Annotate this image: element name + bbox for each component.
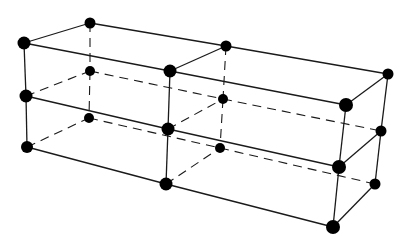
visible-edge-FL0-FL1 — [24, 43, 26, 96]
visible-edge-FR0-FR1 — [339, 105, 346, 167]
visible-edge-FR0-BR0 — [346, 74, 388, 105]
visible-edge-FR2-BR2 — [333, 184, 375, 227]
hidden-edge-FM2-BM2 — [166, 148, 220, 184]
visible-edge-FM0-BM0 — [170, 46, 226, 71]
node-BL2 — [84, 113, 94, 123]
visible-edge-BR1-BR2 — [375, 131, 381, 184]
hidden-edge-BM2-BR2 — [220, 148, 375, 184]
node-FR2 — [326, 220, 340, 234]
hidden-edge-FM1-BM1 — [168, 99, 223, 129]
visible-edge-FL1-FL2 — [26, 96, 27, 147]
node-BR0 — [383, 69, 394, 80]
node-FR1 — [332, 160, 346, 174]
visible-edge-FM1-FR1 — [168, 129, 339, 167]
lattice-diagram — [0, 0, 412, 244]
node-BR2 — [370, 179, 381, 190]
edge-layer — [24, 23, 388, 227]
node-BM0 — [221, 41, 232, 52]
hidden-edge-BM1-BR1 — [223, 99, 381, 131]
visible-edge-FM0-FM1 — [168, 71, 170, 129]
visible-edge-FR1-BR1 — [339, 131, 381, 167]
node-FM2 — [160, 178, 173, 191]
hidden-edge-FL2-BL2 — [27, 118, 89, 147]
visible-edge-FR1-FR2 — [333, 167, 339, 227]
visible-edge-FM2-FR2 — [166, 184, 333, 227]
hidden-edge-BM0-BM1 — [223, 46, 226, 99]
visible-edge-BR0-BR1 — [381, 74, 388, 131]
node-FL2 — [21, 141, 33, 153]
node-FM1 — [162, 123, 175, 136]
visible-edge-FL0-FM0 — [24, 43, 170, 71]
node-BM1 — [218, 94, 228, 104]
node-FM0 — [164, 65, 177, 78]
visible-edge-BM0-BR0 — [226, 46, 388, 74]
node-FL1 — [20, 90, 33, 103]
visible-edge-FM1-FM2 — [166, 129, 168, 184]
node-BL0 — [85, 18, 96, 29]
hidden-edge-BL1-BM1 — [90, 71, 223, 99]
visible-edge-FL0-BL0 — [24, 23, 90, 43]
hidden-edge-BL2-BM2 — [89, 118, 220, 148]
visible-edge-BL0-BM0 — [90, 23, 226, 46]
node-layer — [18, 18, 394, 235]
node-BR1 — [376, 126, 387, 137]
node-FR0 — [339, 98, 353, 112]
node-BM2 — [215, 143, 225, 153]
visible-edge-FM0-FR0 — [170, 71, 346, 105]
node-FL0 — [18, 37, 31, 50]
visible-edge-FL2-FM2 — [27, 147, 166, 184]
hidden-edge-FL1-BL1 — [26, 71, 90, 96]
visible-edge-FL1-FM1 — [26, 96, 168, 129]
node-BL1 — [85, 66, 95, 76]
